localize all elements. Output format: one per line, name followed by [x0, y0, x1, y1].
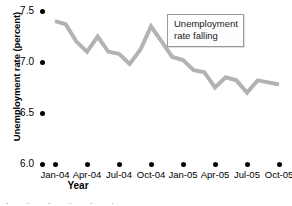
bottom-cutoff-text: . . . . . . — [6, 202, 122, 206]
annotation-callout: Unemployment rate falling — [167, 14, 244, 47]
unemployment-line-chart: Unemployment rate (percent) 7.57.06.56.0… — [0, 0, 292, 206]
x-tick-label: Oct-05 — [265, 170, 292, 180]
annotation-line-1: Unemployment — [174, 18, 238, 30]
x-tick-dot — [149, 162, 154, 167]
x-tick-label: Jan-04 — [40, 170, 69, 180]
x-axis-title: Year — [67, 180, 88, 191]
bottom-cutoff-bleed: . . . . . . — [0, 202, 292, 206]
annotation-line-2: rate falling — [174, 30, 238, 42]
x-tick-dot — [245, 162, 250, 167]
x-tick-dot — [117, 162, 122, 167]
x-tick-dot — [85, 162, 90, 167]
x-tick-dot — [53, 162, 58, 167]
x-tick-dot — [181, 162, 186, 167]
x-tick-label: Oct-04 — [137, 170, 166, 180]
x-tick-label: Jul-05 — [234, 170, 260, 180]
x-tick-dot — [277, 162, 282, 167]
x-tick-label: Jul-04 — [106, 170, 132, 180]
x-tick-label: Apr-05 — [201, 170, 230, 180]
x-tick-dot — [213, 162, 218, 167]
x-tick-label: Apr-04 — [73, 170, 102, 180]
x-tick-label: Jan-05 — [168, 170, 197, 180]
